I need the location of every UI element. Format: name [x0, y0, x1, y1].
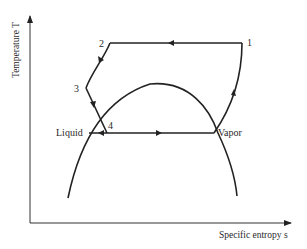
- saturation-dome: [68, 84, 237, 198]
- arrow-1-2-icon: [168, 40, 174, 46]
- x-axis-label: Specific entropy s: [219, 230, 288, 240]
- state-label-3: 3: [74, 83, 79, 94]
- arrow-mid-evap-icon: [156, 130, 162, 136]
- state-label-1: 1: [247, 37, 252, 48]
- vapor-label: Vapor: [218, 127, 243, 138]
- y-axis-label: Temperature T: [11, 22, 21, 78]
- state-label-4: 4: [108, 120, 113, 131]
- t-s-diagram: 1 2 3 4 Liquid Vapor Temperature T Speci…: [0, 0, 307, 249]
- path-2-3: [86, 43, 110, 88]
- state-label-2: 2: [99, 38, 104, 49]
- liquid-label: Liquid: [56, 127, 83, 138]
- path-vapor-1: [214, 43, 242, 133]
- arrow-evap-icon: [98, 130, 104, 136]
